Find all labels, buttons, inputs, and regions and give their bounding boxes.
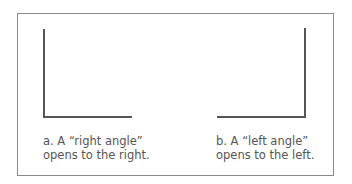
- left-angle-vertical-line: [304, 28, 306, 118]
- left-angle-horizontal-line: [217, 116, 306, 118]
- caption-a: a. A “right angle” opens to the right.: [43, 134, 150, 162]
- right-angle-horizontal-line: [43, 116, 132, 118]
- right-angle-vertical-line: [43, 29, 45, 118]
- caption-a-line2: opens to the right.: [43, 148, 150, 162]
- caption-b: b. A “left angle” opens to the left.: [216, 134, 314, 162]
- caption-b-line2: opens to the left.: [216, 148, 314, 162]
- caption-b-line1: b. A “left angle”: [216, 134, 314, 148]
- caption-a-line1: a. A “right angle”: [43, 134, 150, 148]
